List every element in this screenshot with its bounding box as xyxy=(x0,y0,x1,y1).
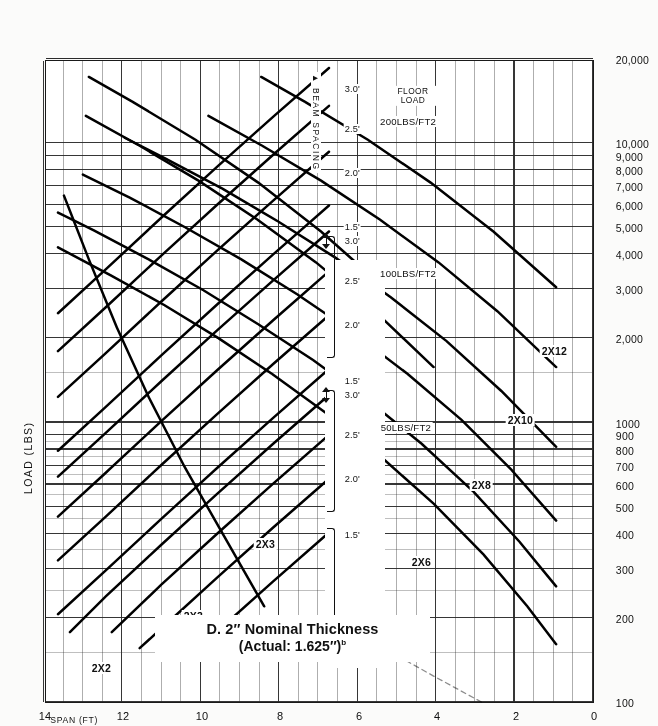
y-axis-tick: 800 xyxy=(616,445,634,457)
load-family-200psf: 200LBS/FT2 xyxy=(378,116,438,127)
curve-label-2x8: 2X8 xyxy=(470,479,493,491)
gridline-major-h xyxy=(46,58,593,59)
curve-2x2 xyxy=(64,196,264,607)
load-family-100psf: 100LBS/FT2 xyxy=(378,268,438,279)
beam-spacing-caption: ▲ BEAM SPACING xyxy=(311,72,321,173)
y-axis-tick: 400 xyxy=(616,529,634,541)
curve-2x12 xyxy=(58,247,556,644)
x-axis-title: SPAN (FT) xyxy=(50,715,98,725)
y-axis-tick: 3,000 xyxy=(616,284,643,296)
y-axis-tick: 10,000 xyxy=(616,138,649,150)
curve-label-2x2: 2X2 xyxy=(90,662,113,674)
y-axis-tick: 8,000 xyxy=(616,165,643,177)
spacing-50-2.5: 2.5' xyxy=(344,430,361,440)
loadline-200-1.5 xyxy=(58,206,329,451)
floor-load-caption: FLOOR LOAD xyxy=(383,86,443,106)
beam-spacing-text: BEAM SPACING xyxy=(311,88,321,171)
loadline-100-1.5 xyxy=(58,369,329,614)
y-axis-tick: 20,000 xyxy=(616,54,649,66)
brace-200psf xyxy=(327,236,335,358)
x-axis-tick: 12 xyxy=(117,710,129,722)
y-axis-tick: 500 xyxy=(616,502,634,514)
curve-label-2x3-lower: 2X3 xyxy=(254,538,277,550)
curve-label-2x12: 2X12 xyxy=(540,345,569,357)
y-axis-tick: 2,000 xyxy=(616,333,643,345)
y-axis-tick: 5,000 xyxy=(616,222,643,234)
beam-spacing-arrow-glyph: ▲ xyxy=(311,74,321,84)
spacing-200-2.0: 2.0' xyxy=(344,168,361,178)
plot-area: 2X2 2X3 2X4 2X3 2X4 2X6 2X8 2X10 2X12 1.… xyxy=(45,60,594,703)
spacing-100-2.0: 2.0' xyxy=(344,320,361,330)
x-axis-tick: 6 xyxy=(356,710,362,722)
brace-100psf xyxy=(327,390,335,512)
x-axis-tick: 10 xyxy=(196,710,208,722)
spacing-50-3.0: 3.0' xyxy=(344,390,361,400)
spacing-100-2.5: 2.5' xyxy=(344,276,361,286)
chart-title-line2-text: (Actual: 1.625″) xyxy=(239,638,341,654)
x-axis-tick: 2 xyxy=(513,710,519,722)
spacing-200-3.0: 3.0' xyxy=(344,84,361,94)
y-axis-tick: 600 xyxy=(616,480,634,492)
y-axis-tick: 9,000 xyxy=(616,151,643,163)
loadline-200-3.0 xyxy=(58,68,329,313)
load-family-50psf: 50LBS/FT2 xyxy=(379,422,433,433)
curve-label-2x6: 2X6 xyxy=(410,556,433,568)
gridline-major-v xyxy=(43,61,44,702)
x-axis-tick: 14 xyxy=(39,710,51,722)
y-axis-tick: 300 xyxy=(616,564,634,576)
x-axis-tick: 8 xyxy=(277,710,283,722)
y-axis-tick: 900 xyxy=(616,430,634,442)
spacing-50-1.5: 1.5' xyxy=(344,530,361,540)
chart-title-plate: D. 2″ Nominal Thickness (Actual: 1.625″)… xyxy=(155,615,430,662)
curve-label-2x10: 2X10 xyxy=(506,414,535,426)
spacing-200-1.5: 1.5' xyxy=(344,222,361,232)
y-axis-tick: 100 xyxy=(616,697,634,709)
spacing-100-1.5: 1.5' xyxy=(344,376,361,386)
y-axis-title: LOAD (LBS) xyxy=(0,482,22,494)
chart-title-line2: (Actual: 1.625″)b xyxy=(165,638,420,654)
spacing-100-3.0: 3.0' xyxy=(344,236,361,246)
floor-load-line2: LOAD xyxy=(385,96,441,105)
y-axis-tick: 200 xyxy=(616,613,634,625)
spacing-50-2.0: 2.0' xyxy=(344,474,361,484)
y-axis-tick: 6,000 xyxy=(616,200,643,212)
x-axis-tick: 4 xyxy=(434,710,440,722)
x-axis-tick: 0 xyxy=(591,710,597,722)
chart-title-footnote-mark: b xyxy=(341,638,346,647)
spacing-200-2.5: 2.5' xyxy=(344,124,361,134)
y-axis-tick: 700 xyxy=(616,461,634,473)
loadline-100-2.5 xyxy=(58,271,329,516)
y-axis-title-text: LOAD (LBS) xyxy=(22,422,34,494)
y-axis-tick: 4,000 xyxy=(616,249,643,261)
y-axis-tick: 1000 xyxy=(616,418,640,430)
y-axis-tick: 7,000 xyxy=(616,181,643,193)
chart-title-line1: D. 2″ Nominal Thickness xyxy=(165,621,420,637)
chart-sheet: 10020030040050060070080090010002,0003,00… xyxy=(0,0,658,726)
